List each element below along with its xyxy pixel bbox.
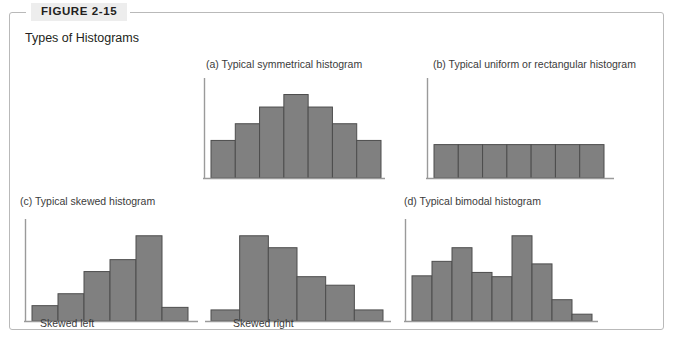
- histogram-bar: [512, 236, 532, 321]
- histogram-c2-plot: [205, 211, 391, 329]
- histogram-bar: [284, 95, 308, 178]
- histogram-bar: [235, 124, 259, 178]
- histogram-bar: [136, 236, 162, 321]
- histogram-b: [426, 74, 622, 186]
- histogram-bar: [326, 285, 355, 321]
- histogram-bar: [162, 307, 188, 321]
- histogram-bar: [357, 140, 381, 178]
- histogram-c-skewed-right: [205, 211, 391, 329]
- histogram-d-bimodal: [404, 211, 598, 329]
- histogram-bar: [572, 314, 592, 321]
- histogram-bar: [507, 145, 531, 178]
- figure-label: FIGURE 2-15: [31, 3, 127, 21]
- histogram-bar: [432, 261, 452, 321]
- histogram-bar: [580, 145, 604, 178]
- panel-b-caption: (b) Typical uniform or rectangular histo…: [433, 58, 636, 70]
- histogram-bar: [532, 264, 552, 321]
- histogram-bar: [84, 272, 110, 321]
- histogram-bar: [354, 310, 383, 321]
- histogram-bar: [458, 145, 482, 178]
- histogram-bar: [552, 300, 572, 321]
- histogram-bar: [412, 276, 432, 321]
- panel-d-caption: (d) Typical bimodal histogram: [404, 195, 541, 207]
- histogram-bar: [434, 145, 458, 178]
- histogram-bar: [555, 145, 579, 178]
- histogram-bar: [308, 107, 332, 178]
- histogram-a: [199, 74, 385, 186]
- histogram-bar: [332, 124, 356, 178]
- panel-a-caption: (a) Typical symmetrical histogram: [206, 58, 362, 70]
- panel-c2-sublabel-skewed-right: Skewed right: [233, 317, 294, 329]
- histogram-bar: [240, 236, 269, 321]
- histogram-c-skewed-left: [20, 211, 198, 329]
- figure-container: FIGURE 2-15 Types of Histograms (a) Typi…: [0, 0, 676, 344]
- histogram-bar: [268, 248, 297, 321]
- histogram-b-plot: [426, 74, 622, 186]
- histogram-bar: [110, 260, 136, 321]
- histogram-bar: [472, 272, 492, 321]
- histogram-bar: [211, 140, 235, 178]
- panel-c-sublabel-skewed-left: Skewed left: [40, 317, 94, 329]
- histogram-c-plot: [20, 211, 198, 329]
- histogram-bar: [483, 145, 507, 178]
- histogram-bar: [492, 277, 512, 321]
- page-title: Types of Histograms: [25, 31, 139, 46]
- histogram-bar: [260, 107, 284, 178]
- histogram-bar: [297, 277, 326, 321]
- histogram-bar: [452, 248, 472, 321]
- histogram-d-plot: [404, 211, 598, 329]
- panel-c-caption: (c) Typical skewed histogram: [20, 195, 155, 207]
- histogram-bar: [531, 145, 555, 178]
- histogram-a-plot: [199, 74, 385, 186]
